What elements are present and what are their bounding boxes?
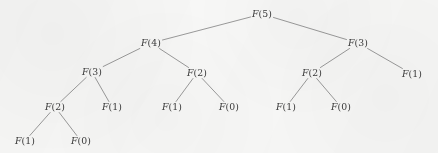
- tree-node-label: F(1): [14, 135, 35, 146]
- tree-node-label: F(4): [140, 37, 161, 48]
- recursion-tree-figure: F(5)F(4)F(3)F(3)F(2)F(2)F(1)F(2)F(1)F(1)…: [0, 0, 438, 153]
- tree-node-label: F(0): [330, 101, 351, 112]
- tree-node-label: F(1): [101, 101, 122, 112]
- recursion-tree-canvas: F(5)F(4)F(3)F(3)F(2)F(2)F(1)F(2)F(1)F(1)…: [0, 0, 438, 153]
- tree-node-label: F(0): [70, 135, 91, 146]
- tree-edge: [30, 113, 50, 136]
- tree-edge: [274, 17, 347, 39]
- tree-edge: [290, 79, 308, 102]
- tree-node-label: F(2): [186, 67, 207, 78]
- tree-node-label: F(1): [401, 68, 422, 79]
- tree-edge: [317, 79, 337, 102]
- tree-node-label: F(0): [218, 101, 239, 112]
- tree-edge: [61, 78, 86, 102]
- tree-node-label: F(3): [347, 37, 368, 48]
- tree-node-label: F(2): [301, 67, 322, 78]
- tree-node-label: F(1): [275, 101, 296, 112]
- tree-edge: [320, 49, 349, 68]
- tree-edge: [95, 78, 109, 102]
- tree-edge: [159, 49, 188, 68]
- tree-node-label: F(2): [44, 101, 65, 112]
- tree-nodes-group: F(5)F(4)F(3)F(3)F(2)F(2)F(1)F(2)F(1)F(1)…: [14, 8, 422, 146]
- tree-edge: [176, 79, 193, 102]
- tree-edge: [202, 79, 224, 102]
- tree-edge: [368, 49, 403, 69]
- tree-node-label: F(3): [81, 66, 102, 77]
- tree-edge: [163, 17, 251, 40]
- tree-node-label: F(5): [251, 8, 272, 19]
- tree-node-label: F(1): [161, 101, 182, 112]
- tree-edge: [103, 49, 140, 67]
- tree-edge: [59, 113, 77, 136]
